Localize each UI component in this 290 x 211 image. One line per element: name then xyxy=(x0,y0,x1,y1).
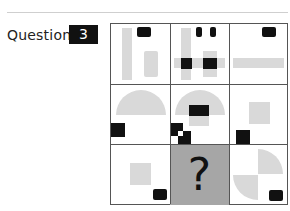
gray-short-bar xyxy=(144,51,158,77)
black-small-rect xyxy=(210,27,216,37)
gray-vertical-bar xyxy=(181,28,191,80)
cell-r1-c1 xyxy=(111,24,170,84)
gray-horizontal-bar xyxy=(233,58,284,68)
checker-gap xyxy=(178,131,183,136)
grid-divider-v1 xyxy=(170,24,171,204)
cell-r1-c3 xyxy=(229,24,288,84)
question-mark: ? xyxy=(170,149,229,200)
black-rect xyxy=(262,27,276,37)
black-small-rect xyxy=(196,27,202,37)
gray-vertical-bar xyxy=(122,28,132,80)
cell-r3-c1 xyxy=(111,145,170,205)
black-square xyxy=(111,123,125,137)
gray-quarter-circle-bottom-left xyxy=(233,175,258,200)
top-rule xyxy=(7,12,288,13)
black-rect xyxy=(269,190,283,201)
question-label: Question xyxy=(7,27,71,43)
black-rect xyxy=(189,105,209,116)
black-square xyxy=(236,130,250,145)
gray-semicircle xyxy=(116,90,166,115)
question-number-badge: 3 xyxy=(69,25,98,44)
grid-divider-v2 xyxy=(229,24,230,204)
puzzle-grid: ? xyxy=(110,23,288,205)
grid-divider-h1 xyxy=(111,84,287,85)
gray-square xyxy=(130,163,151,185)
grid-divider-h2 xyxy=(111,144,287,145)
cell-r3-c3 xyxy=(229,145,288,205)
black-rect xyxy=(137,27,151,37)
black-rect xyxy=(153,189,167,200)
cell-r2-c1 xyxy=(111,85,170,145)
gray-quarter-circle-top-right xyxy=(258,149,283,174)
gray-square xyxy=(249,102,270,124)
black-square xyxy=(203,58,217,69)
cell-r2-c3 xyxy=(229,85,288,145)
cell-r1-c2 xyxy=(170,24,229,84)
black-square xyxy=(181,58,192,69)
missing-cell[interactable]: ? xyxy=(170,145,229,205)
cell-r2-c2 xyxy=(170,85,229,145)
